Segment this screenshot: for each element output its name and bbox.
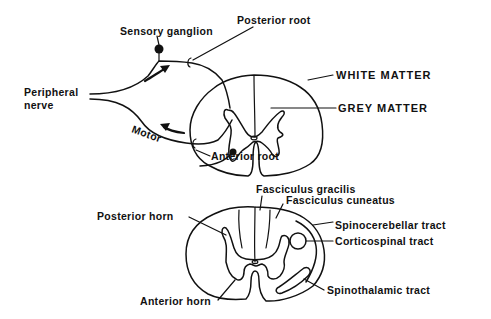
spinal-cord-diagram: Sensory ganglion Posterior root Peripher… — [0, 0, 491, 319]
sensory-ganglion-body — [155, 45, 164, 54]
label-anterior-root: Anterior root — [211, 150, 279, 162]
label-grey-matter: GREY MATTER — [338, 102, 428, 114]
spinocerebellar-tract-region — [296, 221, 316, 282]
label-spinocerebellar-tract: Spinocerebellar tract — [335, 219, 446, 231]
white-matter-leader — [308, 75, 333, 80]
label-motor: Motor — [130, 123, 163, 145]
label-corticospinal-tract: Corticospinal tract — [335, 235, 434, 247]
posterior-horn-leader — [189, 217, 226, 235]
spinocerebellar-leader — [313, 222, 333, 225]
central-canal — [251, 136, 257, 140]
spinothalamic-leader — [304, 279, 324, 290]
posterior-median-septum — [254, 76, 255, 137]
spinothalamic-tract-region — [276, 268, 310, 294]
label-sensory-ganglion: Sensory ganglion — [120, 25, 213, 37]
label-posterior-horn: Posterior horn — [97, 210, 174, 222]
sensory-direction-arrow-icon — [145, 65, 170, 81]
label-anterior-horn: Anterior horn — [140, 295, 211, 307]
label-peripheral-nerve-1: Peripheral — [24, 86, 78, 98]
label-fasciculus-cuneatus: Fasciculus cuneatus — [286, 194, 395, 206]
top-panel: Sensory ganglion Posterior root Peripher… — [24, 14, 432, 176]
ganglion-leader-line — [157, 36, 159, 45]
gracilis-cuneatus-boundary-right — [266, 210, 270, 248]
bottom-panel: Fasciculus gracilis Fasciculus cuneatus … — [97, 183, 446, 307]
anterior-horn-leader — [218, 280, 235, 300]
gracilis-cuneatus-boundary-left — [239, 210, 242, 248]
label-spinothalamic-tract: Spinothalamic tract — [327, 284, 430, 296]
cuneatus-leader — [276, 204, 283, 218]
corticospinal-tract-region — [290, 233, 306, 249]
motor-direction-arrow-icon — [160, 123, 184, 133]
anterior-root-leader — [196, 150, 210, 156]
grey-matter-h-shape — [222, 228, 289, 280]
label-white-matter: WHITE MATTER — [336, 69, 432, 81]
label-peripheral-nerve-2: nerve — [24, 99, 54, 111]
label-posterior-root: Posterior root — [237, 14, 311, 26]
